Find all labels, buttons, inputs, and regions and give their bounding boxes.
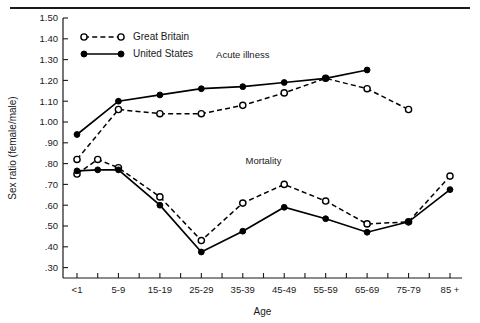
data-point-marker (240, 102, 246, 108)
y-tick-label: .30 (45, 262, 58, 273)
legend-marker (118, 51, 124, 57)
x-tick-label: 25-29 (189, 284, 213, 295)
data-point-marker (74, 132, 80, 138)
x-tick-label: 85 + (441, 284, 460, 295)
x-axis-ticks: <15-915-1925-2935-3945-4955-5965-6975-79… (72, 273, 460, 295)
data-point-marker (323, 198, 329, 204)
figure-container: 1.501.401.301.201.101.00.90.80.70.60.50.… (0, 0, 480, 323)
legend-label-1: United States (133, 48, 193, 59)
data-point-marker (405, 106, 411, 112)
chart-annotation: Acute illness (216, 49, 270, 60)
series-line-mortality-great-britain (77, 159, 450, 240)
data-point-marker (240, 228, 246, 234)
data-point-marker (447, 187, 453, 193)
chart-annotation: Mortality (246, 155, 282, 166)
y-axis-title: Sex ratio (female/male) (7, 96, 18, 199)
y-tick-label: 1.50 (40, 12, 59, 23)
data-point-marker (74, 168, 80, 174)
x-tick-label: 15-19 (148, 284, 172, 295)
data-point-marker (406, 219, 412, 225)
data-point-marker (95, 156, 101, 162)
annotation-layer: Acute illnessMortality (216, 49, 282, 166)
data-point-marker (198, 86, 204, 92)
data-point-marker (281, 90, 287, 96)
y-axis-ticks: 1.501.401.301.201.101.00.90.80.70.60.50.… (40, 12, 69, 273)
data-point-marker (364, 86, 370, 92)
legend-marker (118, 34, 124, 40)
y-tick-label: .90 (45, 137, 58, 148)
data-point-marker (364, 67, 370, 73)
y-tick-label: 1.30 (40, 54, 59, 65)
data-point-marker (281, 80, 287, 86)
data-point-marker (157, 202, 163, 208)
legend: Great BritainUnited States (81, 31, 193, 59)
y-tick-label: .70 (45, 179, 58, 190)
y-tick-label: .50 (45, 220, 58, 231)
y-tick-label: 1.00 (40, 116, 59, 127)
data-point-marker (323, 216, 329, 222)
series-line-acute-illness-great-britain (77, 78, 409, 159)
x-axis-title: Age (254, 306, 272, 317)
data-point-marker (198, 237, 204, 243)
x-tick-label: 5-9 (112, 284, 126, 295)
data-point-marker (364, 229, 370, 235)
data-point-marker (198, 249, 204, 255)
y-tick-label: 1.20 (40, 75, 59, 86)
data-point-marker (157, 111, 163, 117)
data-point-marker (115, 106, 121, 112)
x-tick-label: 45-49 (272, 284, 296, 295)
x-tick-label: 65-69 (355, 284, 379, 295)
data-point-marker (95, 167, 101, 173)
data-point-marker (323, 75, 329, 81)
data-point-marker (157, 194, 163, 200)
data-point-marker (198, 111, 204, 117)
x-tick-label: 35-39 (231, 284, 255, 295)
y-tick-label: 1.40 (40, 33, 59, 44)
y-tick-label: .80 (45, 158, 58, 169)
legend-marker (81, 51, 87, 57)
data-point-marker (240, 200, 246, 206)
data-point-marker (281, 204, 287, 210)
x-tick-label: 55-59 (314, 284, 338, 295)
x-tick-label: 75-79 (396, 284, 420, 295)
y-tick-label: .40 (45, 241, 58, 252)
sex-ratio-line-chart: 1.501.401.301.201.101.00.90.80.70.60.50.… (0, 0, 480, 323)
legend-label-0: Great Britain (133, 31, 189, 42)
y-tick-label: .60 (45, 200, 58, 211)
data-point-marker (364, 221, 370, 227)
x-tick-label: <1 (72, 284, 83, 295)
data-point-marker (281, 181, 287, 187)
data-point-marker (116, 98, 122, 104)
data-point-marker (74, 156, 80, 162)
data-point-marker (447, 173, 453, 179)
y-tick-label: 1.10 (40, 96, 59, 107)
data-point-marker (240, 84, 246, 90)
data-point-marker (157, 92, 163, 98)
legend-marker (81, 34, 87, 40)
series-line-mortality-united-states (77, 170, 450, 252)
data-point-marker (116, 167, 122, 173)
